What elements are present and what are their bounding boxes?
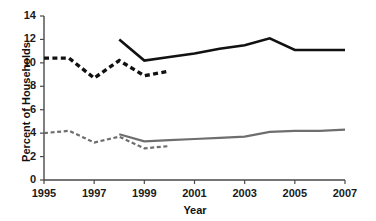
y-tick-label: 0 — [18, 174, 36, 185]
axis-lines — [44, 16, 345, 180]
data-series-lines — [44, 38, 345, 148]
x-tick-label: 2003 — [225, 188, 265, 199]
axis-spine — [44, 16, 345, 180]
x-tick-label: 2005 — [275, 188, 315, 199]
y-tick-label: 14 — [18, 10, 36, 21]
series-line-very-low-food-security-current-methodology — [119, 130, 345, 142]
chart-container: 02468101214 1995199719992001200320052007… — [0, 0, 376, 221]
x-tick-label: 1995 — [24, 188, 64, 199]
x-tick-label: 2007 — [325, 188, 365, 199]
y-axis-title: Percent of Households — [20, 32, 32, 172]
series-line-food-insecurity-current-methodology — [119, 38, 345, 60]
axis-tick-marks — [40, 16, 345, 184]
x-tick-label: 1997 — [74, 188, 114, 199]
x-axis-title: Year — [44, 204, 346, 216]
x-tick-label: 2001 — [175, 188, 215, 199]
series-line-very-low-food-security-old-methodology — [44, 131, 169, 149]
x-tick-label: 1999 — [124, 188, 164, 199]
series-line-food-insecurity-old-methodology — [44, 58, 169, 78]
